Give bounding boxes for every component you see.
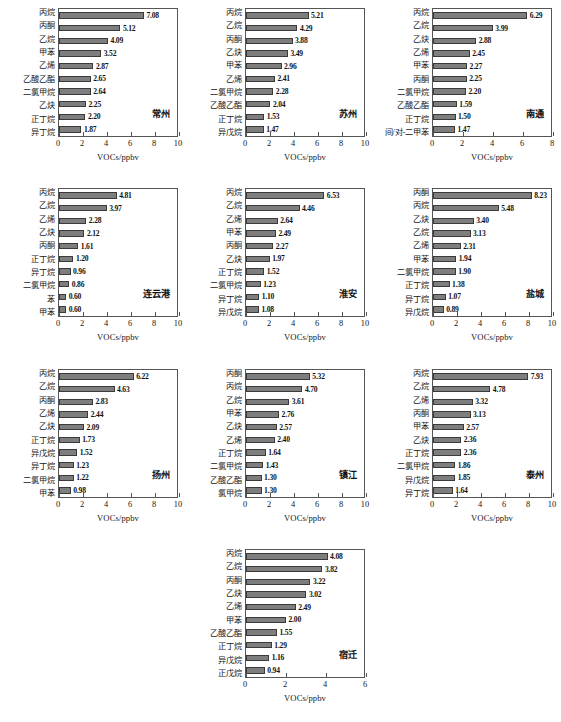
- bar: [59, 373, 134, 379]
- bar-value-label: 2.25: [469, 74, 482, 83]
- category-label: 丙酮: [0, 241, 57, 250]
- tick-mark: [107, 493, 108, 497]
- x-tick-label: 6: [315, 319, 319, 328]
- category-label: 二氯甲烷: [0, 88, 57, 97]
- x-tick-label: 2: [267, 500, 271, 509]
- bar-value-label: 4.08: [330, 552, 343, 561]
- category-label: 乙烷: [0, 201, 57, 210]
- bar: [246, 281, 261, 287]
- x-tick-label: 0: [243, 139, 247, 148]
- category-label: 乙烯: [374, 48, 431, 57]
- bar: [433, 475, 455, 481]
- bar-value-label: 3.88: [295, 36, 308, 45]
- bar-row: 3.22: [246, 575, 364, 588]
- x-tick-label: 0: [430, 319, 434, 328]
- city-annotation: 南通: [526, 106, 544, 120]
- tick-mark: [493, 132, 494, 136]
- bar: [59, 25, 120, 31]
- panel-body: 丙烷乙烷丙酮乙炔甲苯乙烯二氯甲烷乙酸乙酯正丁烷异戊烷5.214.293.883.…: [187, 0, 374, 181]
- category-label: 乙炔: [187, 422, 244, 431]
- x-tick-label: 6: [363, 680, 367, 689]
- panel-body: 丙烷乙烷乙炔乙烯甲苯丙酮二氯甲烷乙酸乙酯正丁烷间/对-二甲苯6.293.992.…: [374, 0, 561, 181]
- bar: [246, 617, 286, 623]
- bar: [433, 101, 457, 107]
- tick-mark: [294, 132, 295, 136]
- category-label: 乙烷: [374, 382, 431, 391]
- x-axis-ticks: [59, 132, 177, 136]
- bar-value-label: 5.12: [123, 24, 136, 33]
- category-label: 二氯甲烷: [187, 281, 244, 290]
- bar: [59, 437, 80, 443]
- bar-row: 2.36: [433, 434, 551, 447]
- bar: [59, 218, 86, 224]
- bar-row: 2.88: [433, 34, 551, 47]
- plot-area: 7.934.783.323.132.572.362.361.861.851.64…: [432, 369, 552, 498]
- bar: [59, 205, 107, 211]
- tick-mark: [246, 493, 247, 497]
- tick-mark: [342, 132, 343, 136]
- bar: [433, 25, 493, 31]
- category-label: 丙烷: [187, 549, 244, 558]
- category-label: 丙酮: [187, 241, 244, 250]
- bar-value-label: 3.13: [473, 229, 486, 238]
- bar-row: 3.13: [433, 408, 551, 421]
- bar: [246, 553, 328, 559]
- x-tick-label: 6: [315, 500, 319, 509]
- x-axis-tick-labels: 0246810: [245, 500, 365, 512]
- bar-value-label: 1.10: [262, 292, 275, 301]
- bar-value-label: 4.29: [300, 24, 313, 33]
- category-label: 氯甲烷: [187, 489, 244, 498]
- bar-row: 2.76: [246, 408, 364, 421]
- bar-row: 2.25: [433, 73, 551, 86]
- x-tick-label: 10: [174, 319, 182, 328]
- category-label: 异丁烷: [0, 128, 57, 137]
- bar-value-label: 1.97: [272, 254, 285, 263]
- bar-row: 2.57: [246, 421, 364, 434]
- category-label: 正丁烷: [0, 115, 57, 124]
- tick-mark: [270, 132, 271, 136]
- bar: [433, 399, 473, 405]
- bar-value-label: 1.07: [448, 292, 461, 301]
- category-axis-labels: 丙烷乙烷丙酮乙炔甲苯乙烯二氯甲烷乙酸乙酯正丁烷异戊烷: [187, 8, 244, 137]
- bar: [59, 475, 74, 481]
- category-label: 丙酮: [187, 576, 244, 585]
- bar-value-label: 1.52: [80, 448, 93, 457]
- bar-value-label: 2.76: [282, 410, 295, 419]
- bar-row: 3.82: [246, 563, 364, 576]
- chart-panel: 丙酮丙烷乙烷甲苯乙炔乙烯正丁烷二氯甲烷乙酸乙酯氯甲烷5.324.703.612.…: [187, 361, 374, 542]
- tick-mark: [366, 312, 367, 316]
- bar: [433, 437, 461, 443]
- city-annotation: 盐城: [526, 286, 544, 300]
- x-axis-ticks: [246, 493, 364, 497]
- bar: [433, 268, 456, 274]
- x-tick-label: 0: [56, 139, 60, 148]
- bar-row: 1.73: [59, 434, 177, 447]
- category-label: 甲苯: [187, 616, 244, 625]
- bar: [246, 373, 310, 379]
- tick-mark: [59, 493, 60, 497]
- bar: [59, 38, 108, 44]
- category-axis-labels: 丙烷乙烷乙烯乙炔丙酮正丁烷异丁烷二氯甲烷苯甲苯: [0, 188, 57, 317]
- x-tick-label: 0: [56, 500, 60, 509]
- bar-value-label: 1.64: [268, 448, 281, 457]
- bar: [59, 399, 93, 405]
- bar-row: 2.49: [246, 227, 364, 240]
- bar-row: 1.64: [246, 446, 364, 459]
- category-label: 乙烷: [187, 562, 244, 571]
- tick-mark: [107, 312, 108, 316]
- tick-mark: [342, 493, 343, 497]
- category-label: 丙烷: [187, 382, 244, 391]
- x-tick-label: 4: [104, 139, 108, 148]
- tick-mark: [83, 312, 84, 316]
- bar-row: 3.40: [433, 214, 551, 227]
- chart-panel: 丙烷乙烷丙酮乙烯乙炔正丁烷异戊烷异丁烷二氯甲烷甲苯6.224.632.832.4…: [0, 361, 187, 542]
- category-label: 丙酮: [187, 35, 244, 44]
- bar-value-label: 1.38: [452, 280, 465, 289]
- bar-value-label: 2.28: [276, 87, 289, 96]
- bar-value-label: 5.21: [311, 11, 324, 20]
- category-label: 甲苯: [0, 48, 57, 57]
- bar: [246, 579, 310, 585]
- bar: [246, 63, 282, 69]
- chart-panel: 丙烷乙烷乙烯乙炔丙酮正丁烷异丁烷二氯甲烷苯甲苯4.813.972.282.121…: [0, 180, 187, 361]
- bar: [246, 655, 269, 661]
